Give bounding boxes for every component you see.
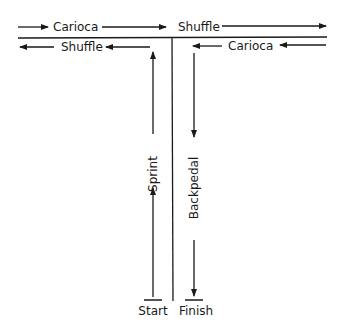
left-stem: Sprint Start — [138, 52, 168, 318]
second-shuffle-label: Shuffle — [61, 40, 103, 54]
diagram-svg: Carioca Shuffle Shuffle Carioca Sprint S… — [0, 0, 343, 329]
second-carioca-label: Carioca — [228, 39, 273, 53]
top-row: Carioca Shuffle — [18, 20, 326, 34]
finish-label: Finish — [179, 304, 213, 318]
sprint-label: Sprint — [146, 156, 160, 192]
top-shuffle-label: Shuffle — [178, 20, 220, 34]
backpedal-label: Backpedal — [187, 157, 201, 219]
t-drill-diagram: Carioca Shuffle Shuffle Carioca Sprint S… — [0, 0, 343, 329]
start-label: Start — [138, 304, 168, 318]
top-boundary-line — [18, 37, 327, 38]
second-row: Shuffle Carioca — [20, 39, 326, 54]
top-carioca-label: Carioca — [53, 20, 98, 34]
right-stem: Backpedal Finish — [179, 53, 213, 318]
center-divider-line — [172, 38, 173, 301]
